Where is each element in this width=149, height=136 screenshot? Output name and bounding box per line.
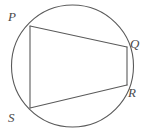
- chord-pq: [30, 26, 127, 47]
- figure-canvas: [0, 0, 149, 136]
- vertex-label-s: S: [8, 111, 15, 124]
- geometry-figure: P Q R S: [0, 0, 149, 136]
- vertex-label-r: R: [128, 86, 136, 99]
- vertex-label-p: P: [8, 10, 16, 23]
- chord-rs: [30, 85, 127, 108]
- vertex-label-q: Q: [130, 37, 139, 50]
